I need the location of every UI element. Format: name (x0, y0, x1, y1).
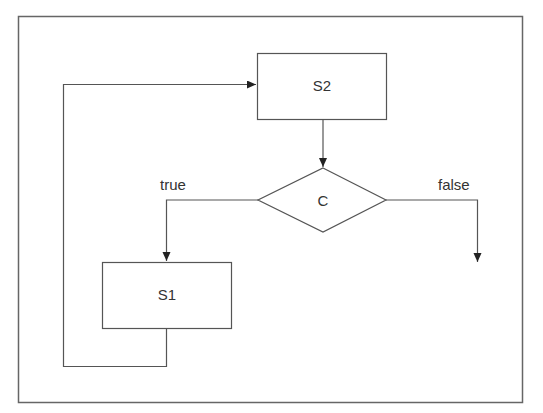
edge-label-true: true (160, 177, 186, 192)
edge-label-false: false (438, 177, 470, 192)
node-s1-label: S1 (102, 287, 232, 302)
edge-c-to-s1-true (167, 200, 259, 261)
node-s2-label: S2 (257, 78, 387, 93)
node-c-label: C (258, 193, 388, 208)
edge-c-false-exit (386, 200, 478, 262)
